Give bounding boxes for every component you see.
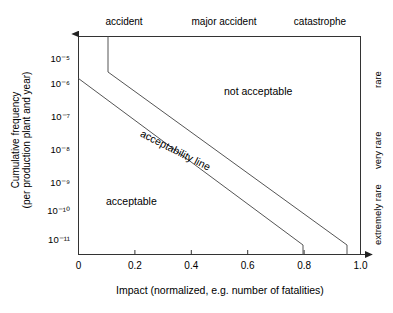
y-axis-title-line2: (per production plant and year) — [21, 30, 32, 250]
region-label-acceptable: acceptable — [106, 195, 157, 207]
x-tick-label-1: 0 — [59, 260, 99, 271]
risk-acceptability-chart: accident major accident catastrophe — [0, 0, 393, 313]
x-tick-label-2: 0.2 — [115, 260, 155, 271]
x-tick-label-4: 0.6 — [228, 260, 268, 271]
region-label-not-acceptable: not acceptable — [224, 85, 292, 97]
x-tick-label-3: 0.4 — [171, 260, 211, 271]
x-axis-title: Impact (normalized, e.g. number of fatal… — [78, 284, 362, 296]
right-category-extremely-rare: extremely rare — [372, 184, 383, 245]
series-acceptability-line — [79, 79, 304, 255]
right-category-rare: rare — [372, 71, 383, 88]
y-axis-title-line1: Cumulative frequency — [10, 92, 21, 189]
x-tick-label-5: 0.8 — [284, 260, 324, 271]
plot-frame — [78, 37, 361, 256]
series-upper-boundary — [108, 37, 347, 255]
y-axis-title: Cumulative frequency (per production pla… — [10, 30, 32, 250]
right-category-very-rare: very rare — [372, 132, 383, 169]
x-axis-ticks — [79, 250, 361, 255]
x-tick-label-6: 1.0 — [341, 260, 381, 271]
